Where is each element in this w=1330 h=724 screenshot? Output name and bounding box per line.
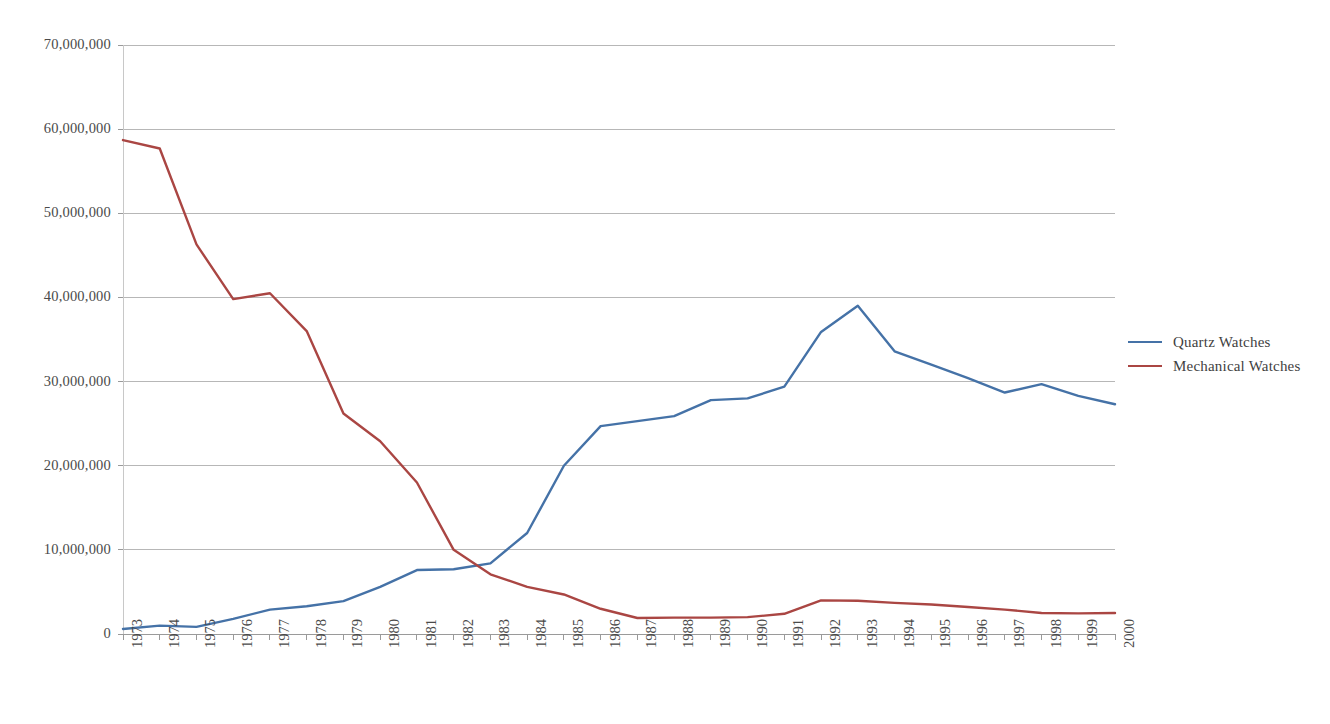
x-axis-tick-label: 1984 (533, 619, 550, 648)
legend-label: Mechanical Watches (1173, 358, 1300, 375)
legend-label: Quartz Watches (1173, 334, 1271, 351)
x-axis-tick-label: 1981 (423, 619, 440, 648)
x-axis-tick-label: 2000 (1121, 619, 1138, 648)
x-axis-tick-label: 1978 (313, 619, 330, 648)
x-axis-tick-label: 1999 (1084, 619, 1101, 648)
legend-swatch-icon (1128, 341, 1162, 343)
legend-item[interactable]: Quartz Watches (1128, 330, 1300, 354)
y-axis-tick-label: 0 (0, 625, 111, 642)
x-axis-tick-label: 1985 (570, 619, 587, 648)
x-axis-tick-label: 1990 (754, 619, 771, 648)
x-axis-tick-label: 1991 (790, 619, 807, 648)
x-axis-tick-label: 1987 (643, 619, 660, 648)
legend-swatch-icon (1128, 365, 1162, 367)
x-axis-tick-label: 1996 (974, 619, 991, 648)
x-axis-tick-label: 1982 (460, 619, 477, 648)
x-axis-tick-label: 1977 (276, 619, 293, 648)
x-axis-tick-label: 1975 (202, 619, 219, 648)
y-axis-tick-label: 40,000,000 (0, 288, 111, 305)
x-axis-tick-label: 1973 (129, 619, 146, 648)
x-axis-tick-label: 1997 (1011, 619, 1028, 648)
series-line-mechanical-watches (123, 140, 1115, 618)
series-line-quartz-watches (123, 306, 1115, 629)
x-axis-tick-label: 1998 (1048, 619, 1065, 648)
x-axis-tick-label: 1994 (901, 619, 918, 648)
x-axis-tick-label: 1974 (166, 619, 183, 648)
y-axis-tick-label: 70,000,000 (0, 36, 111, 53)
x-axis-tick-label: 1980 (386, 619, 403, 648)
legend-item[interactable]: Mechanical Watches (1128, 354, 1300, 378)
y-axis-tick-label: 50,000,000 (0, 204, 111, 221)
x-axis-tick-label: 1992 (827, 619, 844, 648)
y-axis-tick-label: 10,000,000 (0, 541, 111, 558)
x-axis-tick-label: 1983 (496, 619, 513, 648)
x-axis-tick-label: 1988 (680, 619, 697, 648)
x-axis-tick-label: 1993 (864, 619, 881, 648)
x-axis-tick-label: 1976 (239, 619, 256, 648)
x-axis-tick-label: 1979 (349, 619, 366, 648)
y-axis-tick-label: 20,000,000 (0, 457, 111, 474)
x-axis-tick-label: 1989 (717, 619, 734, 648)
line-chart: 70,000,00060,000,00050,000,00040,000,000… (0, 0, 1330, 724)
chart-legend: Quartz WatchesMechanical Watches (1128, 330, 1300, 378)
y-axis-tick-label: 30,000,000 (0, 373, 111, 390)
x-axis-tick-label: 1986 (607, 619, 624, 648)
y-axis-tick-label: 60,000,000 (0, 120, 111, 137)
x-axis-tick-label: 1995 (937, 619, 954, 648)
